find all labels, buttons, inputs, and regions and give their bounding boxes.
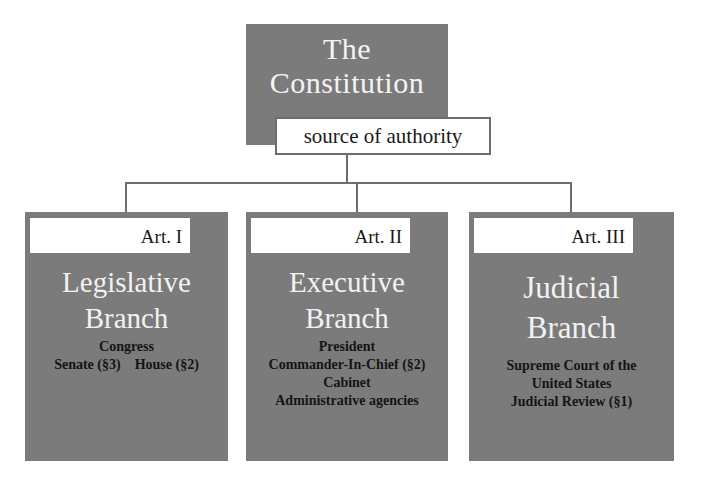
executive-detail-agencies: Administrative agencies — [246, 392, 448, 410]
legislative-title-line1: Legislative — [25, 264, 228, 300]
executive-detail-cabinet: Cabinet — [246, 374, 448, 392]
legislative-detail-senate: Senate (§3) — [54, 357, 121, 372]
executive-details: President Commander-In-Chief (§2) Cabine… — [246, 338, 448, 410]
executive-detail-commander: Commander-In-Chief (§2) — [246, 356, 448, 374]
connector-drop-legislative — [125, 182, 127, 212]
constitution-title-line2: Constitution — [246, 66, 448, 100]
executive-branch-title: Executive Branch — [246, 264, 448, 336]
judicial-branch-box: Art. III Judicial Branch Supreme Court o… — [469, 212, 674, 461]
legislative-detail-house: House (§2) — [135, 357, 199, 372]
executive-title-line1: Executive — [246, 264, 448, 300]
connector-root-stem — [346, 153, 348, 184]
constitution-title-line1: The — [246, 32, 448, 66]
article-label-executive: Art. II — [251, 218, 410, 253]
source-of-authority-label: source of authority — [275, 117, 491, 155]
legislative-detail-chambers: Senate (§3)House (§2) — [25, 356, 228, 374]
judicial-details: Supreme Court of the United States Judic… — [469, 357, 674, 411]
judicial-title-line1: Judicial — [469, 268, 674, 308]
article-label-judicial: Art. III — [474, 218, 633, 253]
judicial-detail-supreme-court: Supreme Court of the — [469, 357, 674, 375]
constitution-title: The Constitution — [246, 32, 448, 100]
executive-branch-box: Art. II Executive Branch President Comma… — [246, 212, 448, 461]
article-label-legislative: Art. I — [30, 218, 190, 253]
connector-horizontal — [125, 182, 572, 184]
judicial-branch-title: Judicial Branch — [469, 268, 674, 348]
legislative-branch-box: Art. I Legislative Branch Congress Senat… — [25, 212, 228, 461]
executive-title-line2: Branch — [246, 300, 448, 336]
judicial-detail-review: Judicial Review (§1) — [469, 393, 674, 411]
legislative-branch-title: Legislative Branch — [25, 264, 228, 336]
connector-drop-executive — [356, 182, 358, 212]
executive-detail-president: President — [246, 338, 448, 356]
judicial-title-line2: Branch — [469, 308, 674, 348]
legislative-title-line2: Branch — [25, 300, 228, 336]
judicial-detail-united-states: United States — [469, 375, 674, 393]
connector-drop-judicial — [570, 182, 572, 212]
legislative-details: Congress Senate (§3)House (§2) — [25, 338, 228, 374]
legislative-detail-congress: Congress — [25, 338, 228, 356]
